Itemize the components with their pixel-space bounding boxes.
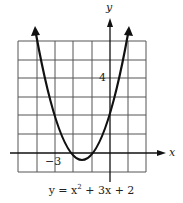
tick-label-x-neg3: −3 xyxy=(45,155,61,168)
curve-arrow-right-icon xyxy=(124,26,133,36)
x-axis-arrow-icon xyxy=(157,150,166,156)
y-axis-arrow-icon xyxy=(107,18,113,27)
axes xyxy=(10,24,160,182)
equation-caption: y = x2 + 3x + 2 xyxy=(0,183,183,197)
parabola-chart xyxy=(0,0,183,203)
y-axis-label: y xyxy=(106,1,112,14)
x-axis-label: x xyxy=(169,146,175,159)
curve-arrow-left-icon xyxy=(31,26,40,36)
tick-label-y-4: 4 xyxy=(99,71,106,84)
